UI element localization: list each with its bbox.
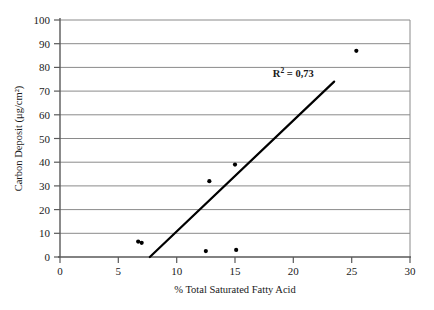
data-point-marker (354, 49, 358, 53)
data-point-marker (140, 241, 144, 245)
svg-text:R2 = 0,73: R2 = 0,73 (273, 66, 314, 79)
y-tick-label: 90 (39, 38, 51, 50)
y-tick-label: 10 (39, 227, 51, 239)
chart-background (0, 0, 434, 310)
data-point-marker (207, 179, 211, 183)
y-tick-label: 100 (34, 14, 51, 26)
x-tick-label: 15 (230, 265, 242, 277)
y-tick-label: 70 (39, 85, 51, 97)
x-tick-label: 25 (346, 265, 358, 277)
y-axis-title: Carbon Deposit (μg/cm²) (13, 85, 25, 191)
data-point-marker (234, 248, 238, 252)
x-tick-label: 20 (288, 265, 300, 277)
x-axis-title: % Total Saturated Fatty Acid (174, 284, 296, 295)
x-tick-label: 10 (171, 265, 183, 277)
y-tick-label: 20 (39, 204, 51, 216)
y-tick-label: 60 (39, 109, 51, 121)
y-tick-label: 30 (39, 180, 51, 192)
r-squared-annotation: R2 = 0,73 (273, 66, 314, 79)
y-tick-label: 50 (39, 133, 51, 145)
chart-container: 100 90 80 70 60 50 40 30 20 10 0 0 5 10 (0, 0, 434, 310)
x-tick-label: 30 (405, 265, 417, 277)
data-point-marker (204, 249, 208, 253)
data-point-marker (233, 162, 237, 166)
x-tick-label: 0 (57, 265, 63, 277)
y-tick-label: 80 (39, 61, 51, 73)
x-tick-label: 5 (116, 265, 122, 277)
y-tick-label: 40 (39, 156, 51, 168)
scatter-plot: 100 90 80 70 60 50 40 30 20 10 0 0 5 10 (0, 0, 434, 310)
y-tick-label: 0 (45, 251, 51, 263)
r-squared-value: = 0,73 (284, 68, 314, 79)
